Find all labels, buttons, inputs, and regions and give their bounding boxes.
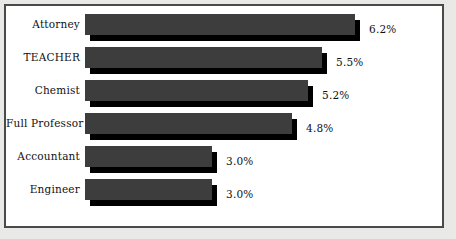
- bar-category-label: Chemist: [6, 83, 80, 98]
- bar-category-label: Engineer: [6, 182, 80, 197]
- bar-value-label: 6.2%: [369, 22, 396, 36]
- bar-fill: [85, 80, 308, 101]
- bar: [85, 80, 313, 107]
- bar-value-label: 5.2%: [322, 88, 349, 102]
- bar-value-label: 3.0%: [226, 187, 253, 201]
- bar-category-label: Full Professor: [6, 116, 80, 131]
- bar-row: Chemist5.2%: [0, 80, 456, 113]
- bar-row: Engineer3.0%: [0, 179, 456, 212]
- bar-row: Full Professor4.8%: [0, 113, 456, 146]
- bar-row: TEACHER5.5%: [0, 47, 456, 80]
- bar: [85, 146, 217, 173]
- bar-fill: [85, 179, 212, 200]
- bar: [85, 179, 217, 206]
- chart-plot-area: Attorney6.2%TEACHER5.5%Chemist5.2%Full P…: [0, 0, 456, 239]
- bar-row: Accountant3.0%: [0, 146, 456, 179]
- bar-fill: [85, 146, 212, 167]
- bar: [85, 113, 297, 140]
- bar-value-label: 5.5%: [336, 55, 363, 69]
- bar-fill: [85, 47, 322, 68]
- bar-category-label: Accountant: [6, 149, 80, 164]
- bar-category-label: TEACHER: [6, 50, 80, 65]
- bar-category-label: Attorney: [6, 17, 80, 32]
- bar-chart-figure: Attorney6.2%TEACHER5.5%Chemist5.2%Full P…: [0, 0, 456, 239]
- bar: [85, 14, 360, 41]
- bar: [85, 47, 327, 74]
- bar-value-label: 3.0%: [226, 154, 253, 168]
- bar-row: Attorney6.2%: [0, 14, 456, 47]
- bar-fill: [85, 14, 355, 35]
- bar-fill: [85, 113, 292, 134]
- bar-value-label: 4.8%: [306, 121, 333, 135]
